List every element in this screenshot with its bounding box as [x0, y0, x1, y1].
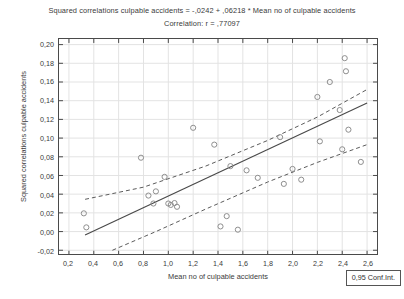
y-tick-label: 0,14	[40, 96, 54, 105]
x-tick-label: 1,6	[238, 259, 248, 268]
x-tick-label: 1,4	[213, 259, 223, 268]
chart-title: Squared correlations culpable accidents …	[0, 6, 404, 15]
y-axis-title: Squared correlations culpable accidents	[19, 22, 28, 252]
x-axis-tick-labels: 0,20,40,60,81,01,21,41,61,82,02,22,42,6	[58, 259, 378, 273]
x-tick-label: 0,6	[113, 259, 123, 268]
x-tick-label: 2,2	[313, 259, 323, 268]
x-tick-label: 0,4	[88, 259, 98, 268]
y-tick-label: 0,08	[40, 152, 54, 161]
data-series	[59, 39, 377, 254]
x-axis-title: Mean no of culpable accidents	[58, 272, 378, 281]
x-tick-label: 1,0	[163, 259, 173, 268]
y-tick-label: 0,20	[40, 39, 54, 48]
x-tick-label: 1,2	[188, 259, 198, 268]
plot-area	[58, 38, 378, 255]
chart-subtitle: Correlation: r = ,77097	[0, 19, 404, 28]
y-tick-label: 0,18	[40, 58, 54, 67]
x-tick-label: 1,8	[263, 259, 273, 268]
x-tick-label: 2,0	[288, 259, 298, 268]
x-tick-label: 2,6	[363, 259, 373, 268]
y-tick-label: 0,00	[40, 228, 54, 237]
x-tick-label: 2,4	[338, 259, 348, 268]
x-tick-label: 0,2	[63, 259, 73, 268]
y-tick-label: 0,04	[40, 190, 54, 199]
chart-page: Squared correlations culpable accidents …	[0, 0, 404, 299]
y-tick-label: 0,06	[40, 171, 54, 180]
legend-conf-int: 0,95 Conf.Int.	[346, 270, 401, 286]
y-tick-label: -0,02	[38, 247, 54, 256]
y-tick-label: 0,16	[40, 77, 54, 86]
y-tick-label: 0,12	[40, 115, 54, 124]
y-tick-label: 0,10	[40, 134, 54, 143]
y-tick-label: 0,02	[40, 209, 54, 218]
x-tick-label: 0,8	[138, 259, 148, 268]
